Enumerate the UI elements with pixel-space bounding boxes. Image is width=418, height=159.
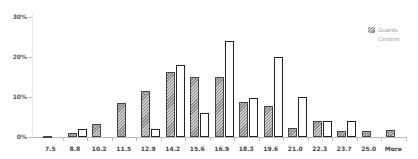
x-tick-label: 12.9 — [136, 145, 160, 152]
x-tick-label: 7.5 — [38, 145, 62, 152]
legend-item-guards: Guards — [368, 26, 399, 35]
bar-guards — [337, 131, 346, 137]
bar-guards — [264, 106, 273, 137]
x-tick-label: 16.9 — [210, 145, 234, 152]
bar-guards — [386, 130, 395, 137]
y-tick — [28, 17, 32, 18]
x-tick — [234, 137, 235, 141]
y-tick-label: 30% — [0, 13, 27, 20]
x-tick — [259, 137, 260, 141]
x-tick — [357, 137, 358, 141]
x-tick — [406, 137, 407, 141]
x-axis — [32, 137, 406, 138]
y-tick — [28, 57, 32, 58]
x-tick — [161, 137, 162, 141]
bar-guards — [362, 131, 371, 137]
x-tick — [332, 137, 333, 141]
x-tick — [136, 137, 137, 141]
x-tick-label: 10.2 — [87, 145, 111, 152]
x-tick — [210, 137, 211, 141]
x-tick — [381, 137, 382, 141]
x-tick-label: More — [381, 145, 405, 152]
legend-item-centers: Centers — [368, 35, 399, 44]
bar-guards — [43, 136, 52, 138]
bar-guards — [166, 72, 175, 137]
hatch-swatch-icon — [368, 27, 375, 33]
histogram-chart: Guards Centers 0%10%20%30%7.58.810.211.5… — [0, 0, 418, 159]
x-tick-label: 25.0 — [357, 145, 381, 152]
outline-swatch-icon — [368, 35, 375, 41]
bar-centers — [225, 41, 234, 137]
x-tick-label: 19.6 — [259, 145, 283, 152]
y-axis — [32, 14, 33, 137]
x-tick-label: 22.3 — [308, 145, 332, 152]
bar-centers — [200, 113, 209, 137]
x-tick — [283, 137, 284, 141]
x-tick — [63, 137, 64, 141]
bar-guards — [215, 77, 224, 137]
x-tick-label: 8.8 — [63, 145, 87, 152]
bar-guards — [239, 102, 248, 137]
bar-centers — [298, 97, 307, 137]
bar-guards — [190, 77, 199, 137]
legend: Guards Centers — [368, 26, 399, 44]
y-tick — [28, 137, 32, 138]
x-tick-label: 18.3 — [234, 145, 258, 152]
x-tick-label: 23.7 — [332, 145, 356, 152]
bar-guards — [288, 128, 297, 137]
bar-centers — [151, 129, 160, 137]
bar-guards — [117, 103, 126, 137]
x-tick — [308, 137, 309, 141]
x-tick-label: 11.5 — [112, 145, 136, 152]
bar-guards — [141, 91, 150, 137]
bar-guards — [68, 133, 77, 137]
x-tick — [112, 137, 113, 141]
bar-centers — [78, 129, 87, 137]
bar-guards — [313, 121, 322, 137]
y-tick-label: 20% — [0, 53, 27, 60]
y-tick-label: 0% — [0, 133, 27, 140]
x-tick — [185, 137, 186, 141]
bar-guards — [92, 124, 101, 137]
bar-centers — [176, 65, 185, 137]
x-tick-label: 21.0 — [283, 145, 307, 152]
y-tick-label: 10% — [0, 93, 27, 100]
x-tick-label: 15.6 — [185, 145, 209, 152]
x-tick — [87, 137, 88, 141]
bar-centers — [274, 57, 283, 137]
bar-centers — [347, 121, 356, 137]
bar-centers — [249, 98, 258, 137]
x-tick-label: 14.2 — [161, 145, 185, 152]
y-tick — [28, 97, 32, 98]
bar-centers — [323, 121, 332, 137]
